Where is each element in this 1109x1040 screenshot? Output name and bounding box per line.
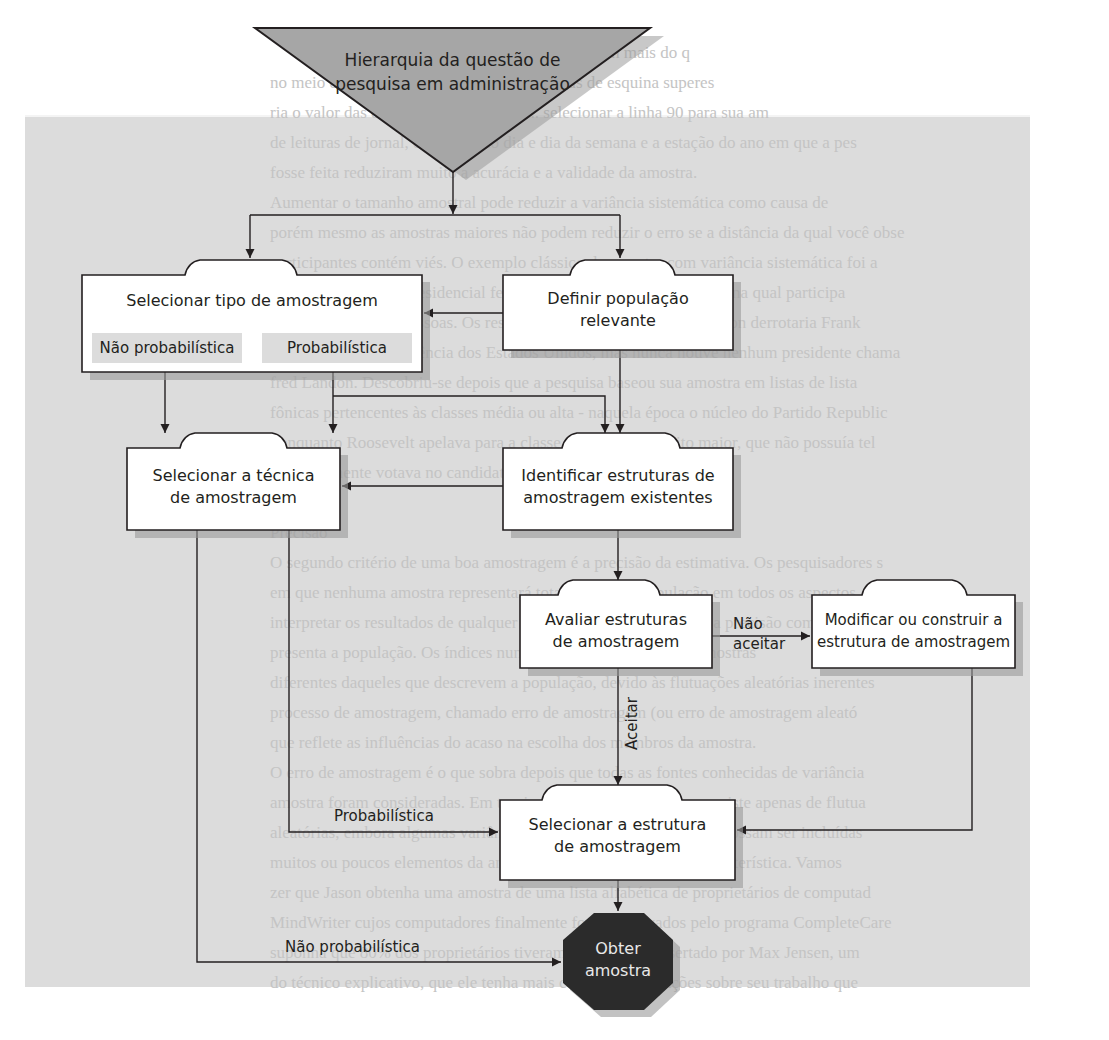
not-accept-line2: aceitar [733, 634, 785, 654]
evaluate-frames-label: Avaliar estruturas de amostragem [520, 609, 712, 653]
start-node-label: Hierarquia da questão de pesquisa em adm… [255, 48, 650, 96]
select-frame-line2: de amostragem [500, 836, 735, 858]
option-non-probabilistic: Não probabilística [92, 337, 242, 359]
obtain-sample-line2: amostra [563, 960, 673, 982]
obtain-sample-line1: Obter [563, 938, 673, 960]
edge-label-not-accept: Não aceitar [733, 614, 785, 654]
select-technique-label: Selecionar a técnica de amostragem [127, 465, 340, 509]
option-probabilistic: Probabilística [262, 337, 412, 359]
box-select-sampling-type [82, 260, 430, 380]
select-technique-line1: Selecionar a técnica [127, 465, 340, 487]
select-frame-label: Selecionar a estrutura de amostragem [500, 814, 735, 858]
define-population-line1: Definir população [503, 288, 733, 310]
obtain-sample-label: Obter amostra [563, 938, 673, 982]
evaluate-frames-line2: de amostragem [520, 631, 712, 653]
edge-label-probabilistic: Probabilística [334, 806, 434, 826]
flowchart-canvas [0, 0, 1109, 1040]
evaluate-frames-line1: Avaliar estruturas [520, 609, 712, 631]
modify-frame-label: Modificar ou construir a estrutura de am… [812, 609, 1015, 653]
select-sampling-type-label: Selecionar tipo de amostragem [82, 290, 422, 312]
modify-frame-line2: estrutura de amostragem [812, 631, 1015, 653]
identify-frames-label: Identificar estruturas de amostragem exi… [503, 465, 733, 509]
edge-label-accept: Aceitar [622, 697, 642, 750]
not-accept-line1: Não [733, 614, 785, 634]
identify-frames-line1: Identificar estruturas de [503, 465, 733, 487]
identify-frames-line2: amostragem existentes [503, 487, 733, 509]
define-population-label: Definir população relevante [503, 288, 733, 332]
modify-frame-line1: Modificar ou construir a [812, 609, 1015, 631]
start-node-label-line1: Hierarquia da questão de [255, 48, 650, 72]
define-population-line2: relevante [503, 310, 733, 332]
start-node-label-line2: pesquisa em administração [255, 72, 650, 96]
select-frame-line1: Selecionar a estrutura [500, 814, 735, 836]
select-technique-line2: de amostragem [127, 487, 340, 509]
edge-label-non-probabilistic: Não probabilística [285, 937, 420, 957]
